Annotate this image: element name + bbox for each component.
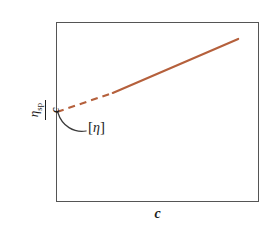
intrinsic-viscosity-annotation: [η] [88, 119, 105, 136]
y-axis-label: ηsp c [6, 72, 82, 148]
plot-frame [56, 22, 259, 202]
bracket-close: ] [100, 119, 105, 135]
y-axis-numerator: ηsp [27, 100, 44, 120]
sp-subscript: sp [34, 103, 44, 111]
y-axis-denominator: c [47, 100, 61, 120]
eta-symbol: η [26, 111, 41, 117]
viscosity-plot-figure: ηsp c c [η] [0, 0, 278, 235]
y-axis-fraction: ηsp c [27, 100, 61, 120]
x-axis-label: c [56, 206, 259, 222]
eta-symbol-annotation: η [93, 120, 100, 135]
